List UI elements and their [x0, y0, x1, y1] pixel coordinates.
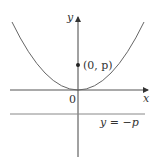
- y-axis-label: y: [66, 11, 74, 24]
- directrix-label: y = −p: [99, 116, 139, 129]
- origin-label: 0: [69, 93, 76, 106]
- parabola-diagram: y x 0 (0, p) y = −p: [0, 0, 160, 161]
- focus-label: (0, p): [83, 59, 113, 72]
- x-axis-label: x: [143, 92, 150, 105]
- focus-point: [76, 63, 80, 67]
